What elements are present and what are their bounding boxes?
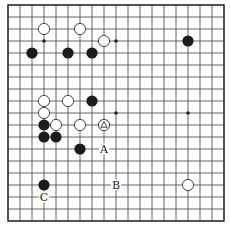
black-stone-icon	[38, 119, 49, 130]
white-stone	[74, 119, 85, 130]
white-stone-icon	[98, 35, 109, 46]
white-stone	[62, 95, 73, 106]
white-stone	[74, 23, 85, 34]
white-stone-icon	[74, 119, 85, 130]
star-point	[114, 39, 118, 43]
white-stone-icon	[50, 119, 61, 130]
white-stone	[182, 179, 193, 190]
white-stone	[38, 107, 49, 118]
black-stone-icon	[62, 47, 73, 58]
black-stone-icon	[26, 47, 37, 58]
black-stone	[50, 131, 61, 142]
white-stone-icon	[62, 95, 73, 106]
white-stone-icon	[38, 107, 49, 118]
star-point	[42, 39, 46, 43]
point-label-b: B	[111, 179, 121, 192]
black-stone	[182, 35, 193, 46]
point-label-a: A	[99, 143, 109, 156]
black-stone	[62, 47, 73, 58]
label-text: B	[112, 179, 120, 192]
white-stone-icon	[74, 23, 85, 34]
go-board: ABC	[0, 0, 230, 229]
star-point	[114, 111, 118, 115]
black-stone	[38, 131, 49, 142]
label-text: A	[99, 143, 109, 156]
point-label-c: C	[39, 191, 49, 204]
white-stone	[98, 119, 109, 130]
black-stone-icon	[38, 179, 49, 190]
black-stone-icon	[86, 95, 97, 106]
black-stone	[38, 179, 49, 190]
white-stone	[38, 95, 49, 106]
star-point	[186, 111, 190, 115]
white-stone	[50, 119, 61, 130]
white-stone	[98, 35, 109, 46]
black-stone-icon	[74, 143, 85, 154]
white-stone-icon	[182, 179, 193, 190]
black-stone-icon	[50, 131, 61, 142]
black-stone	[26, 47, 37, 58]
black-stone-icon	[38, 131, 49, 142]
label-text: C	[40, 191, 48, 204]
black-stone-icon	[86, 47, 97, 58]
black-stone	[86, 95, 97, 106]
white-stone	[38, 23, 49, 34]
white-stone-icon	[38, 95, 49, 106]
black-stone	[86, 47, 97, 58]
black-stone	[38, 119, 49, 130]
stones-layer	[26, 23, 193, 190]
black-stone-icon	[182, 35, 193, 46]
black-stone	[74, 143, 85, 154]
white-stone-icon	[38, 23, 49, 34]
